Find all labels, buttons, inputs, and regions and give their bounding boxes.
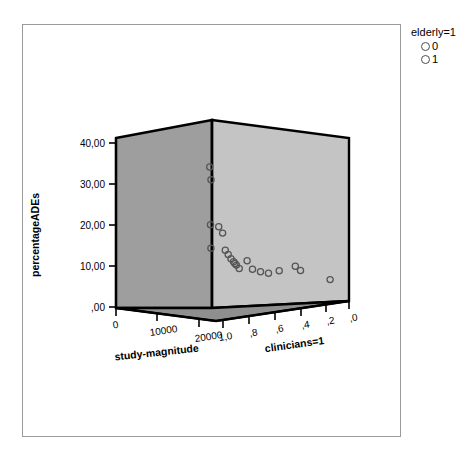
x-tick-label: 0 [112,319,119,331]
y-tick-label: 30,00 [80,179,105,190]
open-circle-icon [421,55,430,64]
y-tick-label: 40,00 [80,138,105,149]
right-wall [212,120,349,308]
legend-item[interactable]: 0 [421,41,473,52]
legend-title: elderly=1 [411,26,473,39]
z-tick-label: ,6 [274,322,284,334]
legend-item-label: 0 [432,41,438,52]
legend: elderly=1 0 1 [411,26,473,65]
z-axis-title: clinicians=1 [264,334,325,354]
chart-canvas: 40,00 30,00 20,00 10,00 ,00 percentageAD… [0,0,474,468]
y-tick-label: 20,00 [80,220,105,231]
z-tick-label: ,2 [325,314,335,326]
legend-item[interactable]: 1 [421,54,473,65]
legend-item-label: 1 [432,54,438,65]
y-tick-label: ,00 [91,302,105,313]
scatter-3d-plot: 40,00 30,00 20,00 10,00 ,00 percentageAD… [23,25,400,436]
open-circle-icon [421,42,430,51]
x-axis-title: study-magnitude [114,342,200,363]
z-tick-label: ,0 [348,311,358,323]
chart-frame: 40,00 30,00 20,00 10,00 ,00 percentageAD… [22,24,401,437]
y-axis: 40,00 30,00 20,00 10,00 ,00 percentageAD… [29,138,116,313]
x-tick-label: 10000 [149,323,179,338]
z-tick-label: 1,0 [218,330,234,343]
z-tick-label: ,4 [300,318,310,330]
left-wall [116,120,212,308]
y-axis-title: percentageADEs [29,193,41,277]
y-tick-label: 10,00 [80,261,105,272]
z-tick-label: ,8 [248,326,258,338]
